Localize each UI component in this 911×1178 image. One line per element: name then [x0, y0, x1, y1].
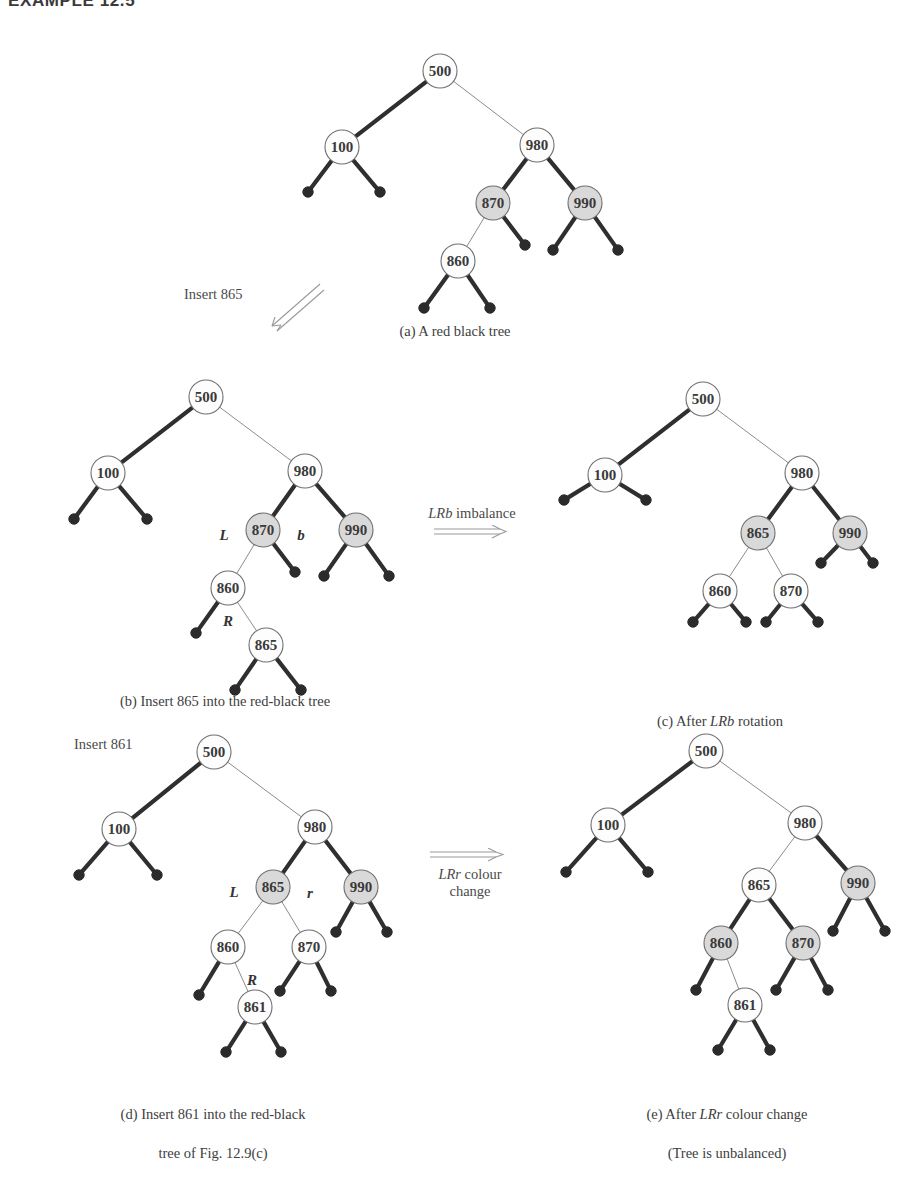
tree-edge — [273, 543, 293, 570]
tree-edge — [326, 543, 347, 573]
external-leaf-node — [559, 495, 569, 505]
tree-node: 865 — [256, 870, 290, 904]
tree-node: 860 — [441, 244, 475, 278]
tree-edge — [129, 841, 155, 872]
tree-nodes: 500100980865990860870861 — [102, 735, 378, 1024]
tree-edge — [719, 760, 792, 813]
external-leaf-node — [485, 303, 495, 313]
tree-node: 100 — [325, 130, 359, 164]
external-leaf-node — [868, 558, 878, 568]
node-value: 870 — [298, 939, 321, 955]
tree-edge — [338, 901, 354, 929]
tree-node: 990 — [833, 516, 867, 550]
tree-edge — [778, 957, 795, 987]
caption-b: (b) Insert 865 into the red-black tree — [35, 692, 415, 712]
tree-edge — [716, 409, 789, 464]
tree-a-diagram: 500100980870990860 — [300, 40, 680, 340]
tree-node: 865 — [742, 868, 776, 902]
tree-edge — [316, 961, 329, 988]
node-value: 860 — [217, 939, 240, 955]
external-leaf-node — [828, 926, 838, 936]
lrr-colour-change-arrow — [428, 848, 510, 866]
page-title: EXAMPLE 12.5 — [8, 0, 135, 11]
external-leaf-node — [419, 303, 429, 313]
tree-edge — [618, 837, 646, 869]
tree-edge — [272, 484, 295, 517]
tree-edge — [866, 897, 884, 928]
tree-edge — [467, 274, 488, 305]
tree-node: 990 — [568, 186, 602, 220]
tree-node: 870 — [246, 513, 280, 547]
edge-label: L — [228, 884, 238, 900]
tree-node: 100 — [102, 812, 136, 846]
lrb-imbalance-label: LRb imbalance — [412, 505, 532, 522]
tree-node: 980 — [788, 806, 822, 840]
node-value: 865 — [262, 879, 285, 895]
tree-node: 980 — [288, 454, 322, 488]
tree-edge — [816, 835, 848, 871]
node-value: 860 — [710, 935, 733, 951]
tree-node: 865 — [249, 628, 283, 662]
caption-d: (d) Insert 861 into the red-black tree o… — [48, 1085, 378, 1163]
external-leaf-node — [275, 986, 285, 996]
tree-edge — [547, 157, 575, 190]
tree-edge — [365, 543, 387, 573]
tree-edge — [812, 485, 840, 520]
tree-node: 500 — [686, 382, 720, 416]
tree-edge — [698, 957, 714, 987]
caption-a: (a) A red black tree — [330, 322, 580, 342]
edge-label: L — [218, 527, 228, 543]
external-leaf-node — [194, 990, 204, 1000]
tree-e-diagram: 500100980865990860870861 — [548, 722, 911, 1072]
insert-865-arrow — [258, 280, 328, 340]
tree-node: 870 — [476, 186, 510, 220]
external-leaf-node — [548, 245, 558, 255]
tree-edge — [236, 544, 254, 575]
node-value: 100 — [597, 817, 620, 833]
external-leaf-node — [331, 927, 341, 937]
tree-node: 980 — [520, 128, 554, 162]
external-leaf-node — [74, 870, 84, 880]
external-leaf-node — [290, 567, 300, 577]
tree-edge — [567, 483, 592, 498]
external-leaf-node — [276, 1047, 286, 1057]
edge-label: R — [246, 972, 257, 988]
external-leaf-node — [771, 985, 781, 995]
tree-edge — [426, 274, 449, 305]
lrb-imbalance-arrow — [432, 525, 512, 543]
external-leaf-node — [375, 187, 385, 197]
tree-edge — [121, 407, 194, 463]
node-value: 100 — [331, 139, 354, 155]
tree-edge — [802, 603, 816, 620]
tree-edge — [568, 837, 597, 870]
tree-edge — [263, 1021, 279, 1049]
tree-edge — [730, 898, 750, 929]
tree-edge — [219, 407, 292, 462]
tree-node: 990 — [841, 866, 875, 900]
tree-edge — [767, 486, 792, 520]
tree-nodes: 500100980870990860 — [325, 54, 602, 278]
tree-node: 100 — [91, 456, 125, 490]
tree-edge — [282, 960, 300, 988]
node-value: 861 — [734, 997, 757, 1013]
tree-edge — [618, 409, 691, 465]
node-value: 980 — [304, 819, 327, 835]
tree-edge — [238, 900, 264, 934]
caption-d-line2: tree of Fig. 12.9(c) — [158, 1145, 267, 1161]
tree-node: 500 — [689, 734, 723, 768]
external-leaf-node — [384, 571, 394, 581]
tree-d-diagram: 500100980865990860870861LrR — [16, 722, 436, 1072]
caption-e-suffix: colour change — [722, 1106, 807, 1122]
tree-node: 865 — [741, 516, 775, 550]
tree-edge — [503, 216, 523, 243]
lrr-line2: change — [449, 883, 490, 899]
tree-node: 870 — [774, 574, 808, 608]
tree-edge — [766, 547, 783, 577]
tree-edge — [730, 603, 744, 619]
tree-edge — [131, 762, 201, 819]
tree-nodes: 500100980865990860870861 — [591, 734, 875, 1022]
node-value: 860 — [217, 580, 240, 596]
lrb-italic: LRb — [428, 505, 452, 521]
caption-e: (e) After LRr colour change (Tree is unb… — [572, 1085, 882, 1163]
tree-edge — [76, 486, 99, 517]
